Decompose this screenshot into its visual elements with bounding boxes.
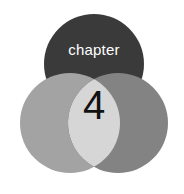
venn-diagram: chapter 4 [0,0,184,194]
chapter-label: chapter [68,41,119,58]
chapter-venn-graphic: chapter 4 [0,0,184,194]
chapter-number: 4 [83,83,105,127]
